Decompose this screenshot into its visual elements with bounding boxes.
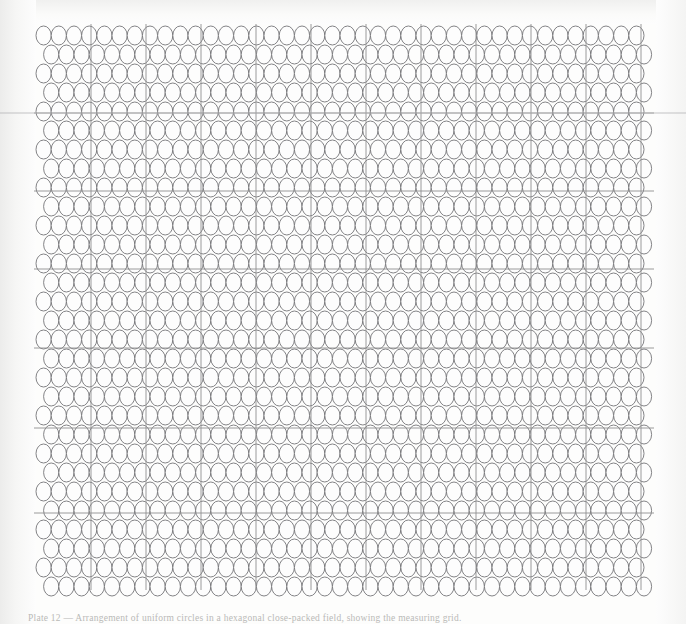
circle-lattice-plate bbox=[0, 0, 686, 624]
circle-lattice-svg bbox=[0, 0, 686, 624]
plate-caption: Plate 12 — Arrangement of uniform circle… bbox=[28, 612, 668, 624]
scanned-page: Plate 12 — Arrangement of uniform circle… bbox=[0, 0, 686, 624]
circle-layer bbox=[36, 26, 652, 596]
